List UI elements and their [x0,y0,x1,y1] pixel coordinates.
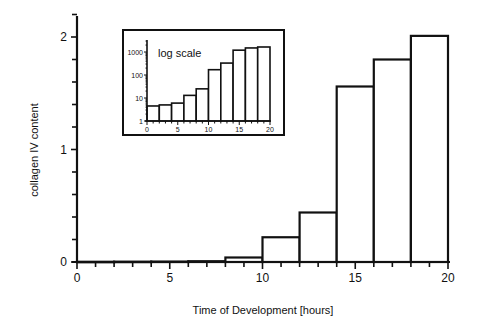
inset-bar [233,50,245,121]
inset-x-tick-label: 10 [205,126,213,133]
main-bar [411,36,448,262]
inset-x-tick-label: 5 [176,126,180,133]
collagen-histogram-chart: 01205101520 Time of Development [hours] … [0,0,478,330]
x-tick-label: 5 [166,271,173,285]
inset-annotation: log scale [158,47,201,59]
x-tick-label: 10 [256,271,270,285]
inset-bar [159,105,171,121]
y-tick-label: 0 [60,255,67,269]
inset-bar [147,106,159,121]
inset-bar [209,70,221,121]
inset-y-tick-label: 1000 [127,49,143,56]
x-axis-label: Time of Development [hours] [193,304,334,316]
inset-bar [184,95,196,121]
inset-bar [172,103,184,121]
inset-bar [245,48,257,121]
inset-log-chart: 110100100005101520 log scale [123,30,284,135]
main-bar [374,60,411,263]
inset-bar [221,63,233,121]
inset-y-tick-label: 10 [135,95,143,102]
inset-x-tick-label: 20 [266,126,274,133]
inset-bar [196,89,208,121]
inset-y-tick-label: 100 [131,72,143,79]
inset-bar [258,47,270,121]
inset-x-tick-label: 15 [235,126,243,133]
inset-y-tick-label: 1 [139,118,143,125]
x-tick-label: 15 [349,271,363,285]
y-tick-label: 1 [60,143,67,157]
x-tick-label: 0 [74,271,81,285]
inset-x-tick-label: 0 [145,126,149,133]
x-tick-label: 20 [441,271,455,285]
main-bar [263,237,300,262]
y-tick-label: 2 [60,30,67,44]
main-bar [337,87,374,263]
y-axis-label: collagen IV content [28,103,40,197]
main-bar [300,213,337,263]
